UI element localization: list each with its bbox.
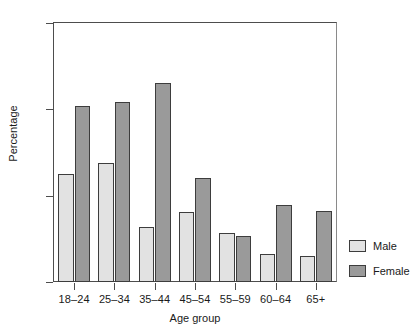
legend-label: Female: [373, 265, 410, 277]
y-axis-title: Percentage: [8, 94, 19, 174]
x-tick-mark: [235, 283, 236, 290]
y-tick-mark: [46, 196, 53, 197]
bar-male-65+: [300, 256, 316, 282]
bar-female-45-54: [195, 178, 211, 282]
bar-female-55-59: [236, 236, 252, 282]
bar-female-25-34: [115, 102, 131, 282]
x-axis: Age group 18–2425–3435–4445–5455–5960–64…: [0, 282, 409, 330]
bar-male-25-34: [98, 163, 114, 282]
y-tick-mark: [46, 23, 53, 24]
legend-swatch-female: [349, 265, 366, 277]
x-tick-label: 65+: [286, 293, 346, 305]
bars-layer: [54, 23, 336, 282]
bar-group: [296, 23, 336, 282]
bar-male-55-59: [219, 233, 235, 282]
legend: MaleFemale: [349, 238, 409, 288]
legend-swatch-male: [349, 240, 366, 252]
bar-female-60-64: [276, 205, 292, 282]
bar-group: [135, 23, 175, 282]
bar-group: [54, 23, 94, 282]
x-tick-mark: [276, 283, 277, 290]
bar-group: [255, 23, 295, 282]
x-tick-mark: [74, 283, 75, 290]
y-axis: Percentage 0102030: [0, 0, 54, 330]
y-tick-mark: [46, 109, 53, 110]
x-tick-mark: [114, 283, 115, 290]
bar-male-45-54: [179, 212, 195, 282]
x-tick-mark: [316, 283, 317, 290]
x-tick-mark: [195, 283, 196, 290]
legend-label: Male: [373, 240, 397, 252]
bar-group: [94, 23, 134, 282]
bar-female-18-24: [75, 106, 91, 282]
bar-group: [215, 23, 255, 282]
bar-female-35-44: [155, 83, 171, 282]
bar-male-60-64: [260, 254, 276, 282]
bar-male-18-24: [58, 174, 74, 282]
x-axis-title: Age group: [53, 312, 337, 324]
x-tick-mark: [155, 283, 156, 290]
legend-item-male[interactable]: Male: [349, 238, 409, 263]
bar-female-65+: [316, 211, 332, 282]
legend-item-female[interactable]: Female: [349, 263, 409, 288]
bar-male-35-44: [139, 227, 155, 282]
bar-group: [175, 23, 215, 282]
